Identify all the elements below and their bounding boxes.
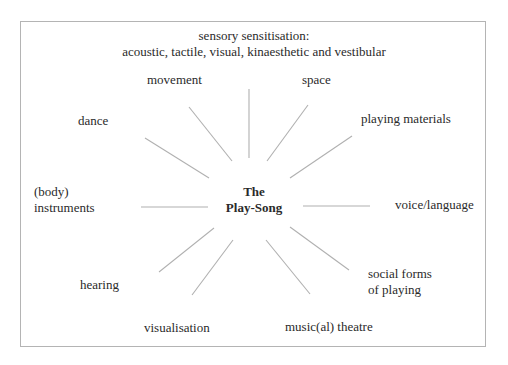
node-hearing: hearing bbox=[80, 277, 119, 293]
center-title-line-2: Play-Song bbox=[210, 200, 298, 216]
node-social-forms-line-1: social forms bbox=[368, 266, 432, 282]
node-social-forms-line-2: of playing bbox=[368, 282, 432, 298]
ray-visualisation bbox=[192, 240, 233, 295]
node-body-instruments-line-2: instruments bbox=[34, 200, 95, 216]
ray-space bbox=[267, 105, 308, 161]
node-playing-materials: playing materials bbox=[361, 111, 451, 127]
ray-musical-theatre bbox=[266, 240, 310, 294]
ray-playing-materials bbox=[290, 136, 352, 178]
node-space: space bbox=[302, 72, 331, 88]
ray-social-forms bbox=[290, 227, 349, 270]
node-dance: dance bbox=[78, 113, 108, 129]
header-line-1: sensory sensitisation: bbox=[0, 28, 508, 44]
node-body-instruments-line-1: (body) bbox=[34, 184, 95, 200]
ray-dance bbox=[145, 138, 209, 178]
node-movement: movement bbox=[147, 72, 202, 88]
header-line-2: acoustic, tactile, visual, kinaesthetic … bbox=[0, 44, 508, 60]
ray-hearing bbox=[159, 228, 214, 272]
node-body-instruments: (body) instruments bbox=[34, 184, 95, 216]
header-label: sensory sensitisation: acoustic, tactile… bbox=[0, 28, 508, 60]
node-social-forms: social forms of playing bbox=[368, 266, 432, 298]
ray-movement bbox=[189, 107, 232, 161]
node-musical-theatre: music(al) theatre bbox=[285, 319, 373, 335]
node-visualisation: visualisation bbox=[144, 320, 210, 336]
center-title: The Play-Song bbox=[210, 184, 298, 216]
node-voice-language: voice/language bbox=[395, 197, 474, 213]
center-title-line-1: The bbox=[210, 184, 298, 200]
